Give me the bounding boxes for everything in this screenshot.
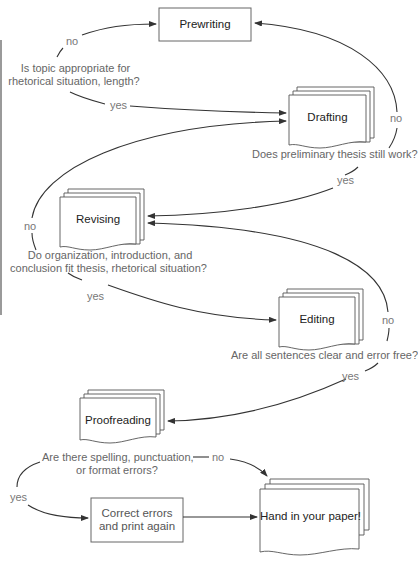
correct-errors-label-line2: and print again [91,520,183,533]
edge-q1-no-upper [82,24,156,35]
branch-q3-no: no [24,220,36,232]
revising-label: Revising [60,213,136,225]
question-1-line1: Is topic appropriate for [8,62,143,75]
edge-q2-yes [148,188,333,216]
question-3-line2: conclusion fit thesis, rhetorical situat… [6,262,211,275]
branch-q1-no: no [66,35,78,47]
branch-q5-no: no [212,451,224,463]
edge-q5-yes [28,505,88,518]
edge-q3-no-lower [32,233,36,250]
edge-q4-yes [168,379,346,421]
edge-q4-no-lower [387,328,389,341]
question-2: Does preliminary thesis still work? [252,148,418,161]
branch-q1-yes: yes [110,99,127,111]
branch-q3-yes: yes [87,290,104,302]
question-4: Are all sentences clear and error free? [231,349,418,362]
editing-label: Editing [279,313,355,325]
edge-q3-yes [108,285,276,320]
question-5-line2: or format errors? [42,464,192,477]
hand-in-label: Hand in your paper! [260,510,359,522]
edge-q1-yes [130,106,286,113]
question-1-line2: rhetorical situation, length? [4,75,144,88]
edge-q2-no-lower [389,128,397,148]
drafting-label: Drafting [289,111,366,123]
proofreading-label: Proofreading [80,414,156,426]
prewriting-label: Prewriting [159,18,251,30]
branch-q4-yes: yes [342,370,359,382]
branch-q2-no: no [390,112,402,124]
edge-q5-yes-upper [17,462,40,487]
edge-q1-no-lower [57,48,63,57]
edge-q5-no [230,459,267,476]
question-5-line1: Are there spelling, punctuation, [42,451,192,464]
branch-q5-yes: yes [10,491,27,503]
branch-q4-no: no [382,314,394,326]
question-3-line1: Do organization, introduction, and [20,249,200,262]
edge-q1-yes-lower [70,92,105,104]
edge-q4-yes-upper [365,363,378,371]
branch-q2-yes: yes [337,174,354,186]
correct-errors-label-line1: Correct errors [91,507,183,520]
